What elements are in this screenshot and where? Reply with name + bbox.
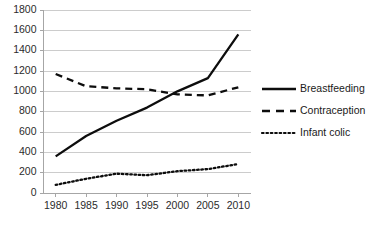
y-axis-tick-label: 1000 bbox=[13, 84, 37, 96]
y-axis-tick-label: 1800 bbox=[13, 3, 37, 15]
x-axis-tick-label: 2000 bbox=[166, 199, 190, 211]
gridlines bbox=[44, 10, 251, 193]
legend-label-infant-colic: Infant colic bbox=[300, 126, 350, 138]
x-axis-tick-labels: 1980198519901995200020052010 bbox=[44, 199, 250, 211]
x-axis-tick-label: 1995 bbox=[135, 199, 159, 211]
data-series bbox=[56, 34, 239, 184]
x-axis-tick-label: 1990 bbox=[105, 199, 129, 211]
legend-label-contraception: Contraception bbox=[300, 104, 366, 116]
x-axis bbox=[44, 193, 251, 197]
x-axis-tick-label: 2010 bbox=[227, 199, 251, 211]
y-axis-tick-label: 1600 bbox=[13, 23, 37, 35]
x-axis-tick-label: 1985 bbox=[74, 199, 98, 211]
chart-legend: BreastfeedingContraceptionInfant colic bbox=[262, 82, 366, 138]
y-axis-tick-label: 200 bbox=[19, 165, 37, 177]
legend-label-breastfeeding: Breastfeeding bbox=[300, 82, 365, 94]
series-line-infant-colic bbox=[56, 164, 239, 185]
y-axis bbox=[40, 10, 44, 193]
x-axis-tick-label: 2005 bbox=[196, 199, 220, 211]
x-axis-tick-label: 1980 bbox=[44, 199, 68, 211]
y-axis-tick-label: 600 bbox=[19, 125, 37, 137]
series-line-contraception bbox=[56, 74, 239, 95]
y-axis-tick-label: 1400 bbox=[13, 43, 37, 55]
y-axis-tick-label: 1200 bbox=[13, 64, 37, 76]
line-chart: 020040060080010001200140016001800 198019… bbox=[0, 0, 368, 226]
chart-canvas: 020040060080010001200140016001800 198019… bbox=[0, 0, 368, 226]
y-axis-tick-label: 800 bbox=[19, 104, 37, 116]
y-axis-tick-labels: 020040060080010001200140016001800 bbox=[13, 3, 37, 198]
y-axis-tick-label: 0 bbox=[31, 186, 37, 198]
y-axis-tick-label: 400 bbox=[19, 145, 37, 157]
